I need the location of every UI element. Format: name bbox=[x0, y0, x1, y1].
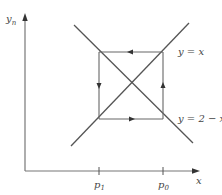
x-axis-arrow-icon bbox=[192, 168, 200, 173]
y-axis: yn bbox=[5, 13, 28, 171]
cobweb-cycle bbox=[97, 50, 166, 122]
identity-line-label: y = x bbox=[177, 46, 204, 57]
reflection-line-label: y = 2 − x bbox=[177, 113, 222, 124]
arrow-down-icon bbox=[97, 83, 102, 89]
arrow-left-icon bbox=[127, 50, 133, 55]
x-axis: x p1 p0 bbox=[25, 167, 202, 192]
reflection-line: y = 2 − x bbox=[74, 25, 222, 143]
tick-label-p1: p1 bbox=[94, 179, 105, 192]
tick-label-p0: p0 bbox=[158, 179, 169, 192]
arrow-right-icon bbox=[129, 117, 135, 122]
y-axis-label: yn bbox=[5, 13, 17, 27]
arrow-up-icon bbox=[161, 82, 166, 88]
x-axis-label: x bbox=[196, 175, 202, 186]
cobweb-diagram: yn x p1 p0 y = x y = 2 − x bbox=[0, 0, 222, 195]
y-axis-arrow-icon bbox=[22, 13, 27, 21]
